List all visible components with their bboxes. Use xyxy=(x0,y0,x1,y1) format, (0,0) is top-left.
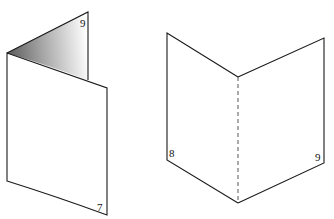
page-number-9-left: 9 xyxy=(80,17,86,29)
page-number-8: 8 xyxy=(169,147,175,159)
left-figure: 9 7 xyxy=(7,12,107,215)
folding-diagram: 9 7 8 9 xyxy=(0,0,334,219)
left-panel xyxy=(167,33,238,203)
front-panel xyxy=(7,53,107,215)
right-panel xyxy=(238,38,324,203)
right-figure: 8 9 xyxy=(167,33,324,203)
page-number-7: 7 xyxy=(97,201,103,213)
page-number-9-right: 9 xyxy=(315,151,321,163)
back-flap xyxy=(7,12,88,80)
